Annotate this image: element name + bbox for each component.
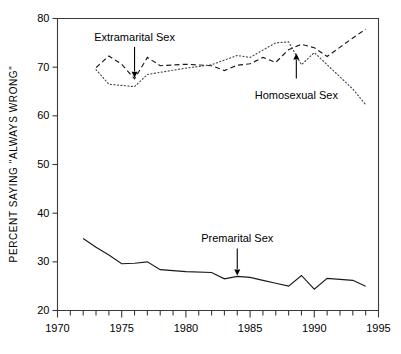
annotation-label-premarital-sex: Premarital Sex xyxy=(201,232,274,244)
annotation-arrow-head xyxy=(234,269,240,275)
chart-tick-labels: 20304050607080197019751980198519901995 xyxy=(37,12,390,334)
y-tick-label: 50 xyxy=(37,158,49,170)
x-tick-label: 1980 xyxy=(174,322,198,334)
y-axis-title: PERCENT SAYING "ALWAYS WRONG" xyxy=(8,66,19,263)
y-tick-label: 30 xyxy=(37,255,49,267)
plot-frame xyxy=(58,19,379,311)
x-tick-label: 1970 xyxy=(45,322,69,334)
annotation-label-extramarital-sex: Extramarital Sex xyxy=(94,31,175,43)
y-tick-label: 80 xyxy=(37,12,49,24)
chart-series xyxy=(83,29,365,289)
x-tick-label: 1975 xyxy=(109,322,133,334)
y-tick-label: 20 xyxy=(37,304,49,316)
x-tick-label: 1985 xyxy=(238,322,262,334)
annotation-arrow-head xyxy=(293,54,299,60)
x-tick-label: 1995 xyxy=(366,322,390,334)
y-tick-label: 40 xyxy=(37,207,49,219)
x-tick-label: 1990 xyxy=(302,322,326,334)
chart-container: Extramarital SexHomosexual SexPremarital… xyxy=(0,0,401,354)
line-chart: Extramarital SexHomosexual SexPremarital… xyxy=(0,0,401,354)
chart-axes xyxy=(53,19,379,318)
series-premarital-sex xyxy=(83,238,365,289)
y-tick-label: 70 xyxy=(37,61,49,73)
annotation-label-homosexual-sex: Homosexual Sex xyxy=(255,89,339,101)
y-tick-label: 60 xyxy=(37,109,49,121)
